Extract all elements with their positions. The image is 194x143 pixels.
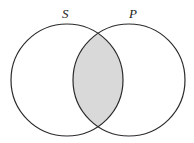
venn-diagram: S P	[0, 0, 194, 143]
label-p: P	[128, 6, 137, 21]
label-s: S	[62, 6, 69, 21]
